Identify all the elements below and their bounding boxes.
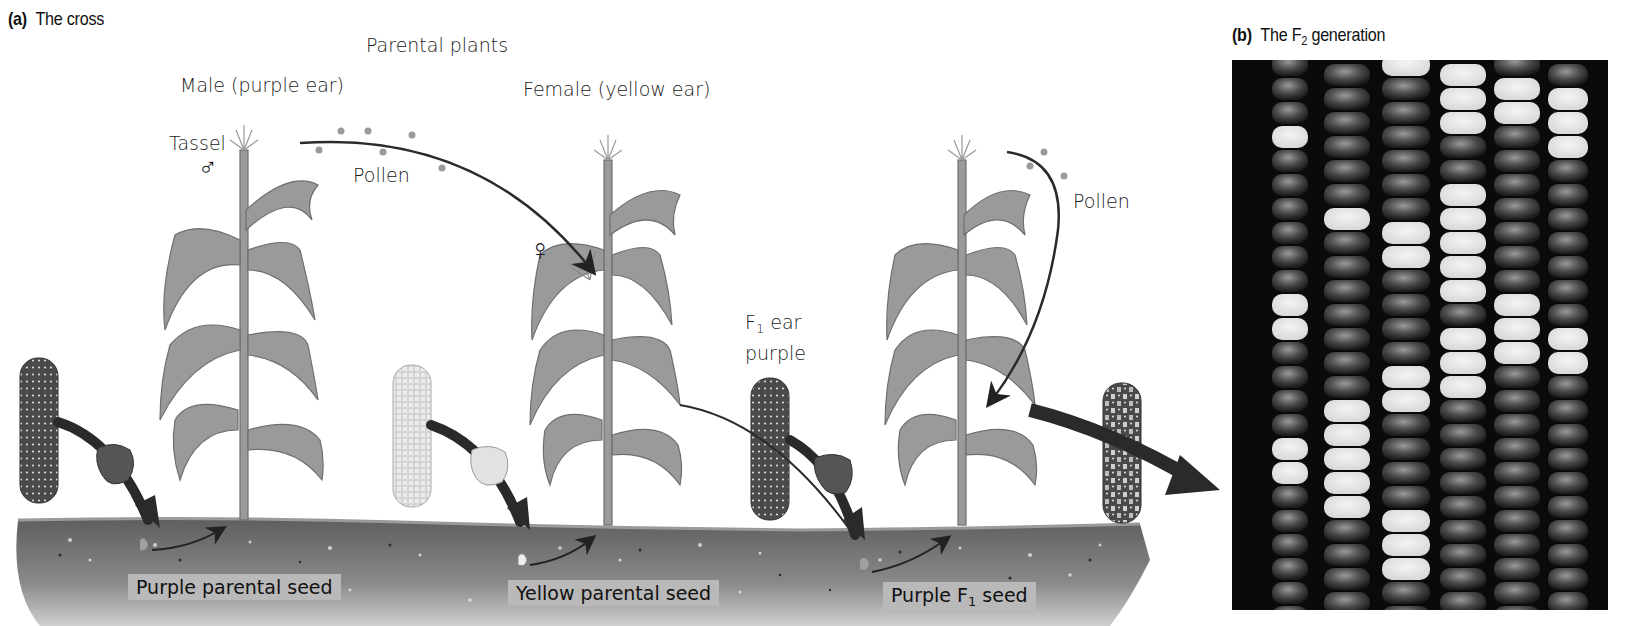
purple-parental-ear [20,358,58,503]
tassel-label: Tassel [169,132,226,154]
purple-f1-seed-label: Purple F1 seed [883,582,1036,611]
pollen-label-1: Pollen [353,164,410,186]
female-symbol-icon: ♀ [529,232,552,267]
f1-ear-label: F1 ear purple [745,310,806,365]
pollen-label-2: Pollen [1073,190,1130,212]
parental-plants-heading: Parental plants [366,34,508,56]
f1-purple-ear [751,378,789,520]
male-corn-plant [160,125,323,520]
male-symbol-icon: ♂ [198,152,218,183]
f1-ear-label-line2: purple [745,341,806,365]
f1-ear-label-line1: F1 ear [745,310,806,341]
yellow-parental-ear [393,365,431,507]
f2-generation-photo [1232,60,1608,610]
female-label: Female (yellow ear) [523,78,710,100]
yellow-parental-seed-label: Yellow parental seed [508,580,719,606]
purple-parental-seed-label: Purple parental seed [128,574,341,600]
f2-kernel-grid [1232,60,1608,610]
f1-corn-plant [885,135,1037,525]
male-label: Male (purple ear) [180,74,344,96]
female-corn-plant [530,135,682,525]
